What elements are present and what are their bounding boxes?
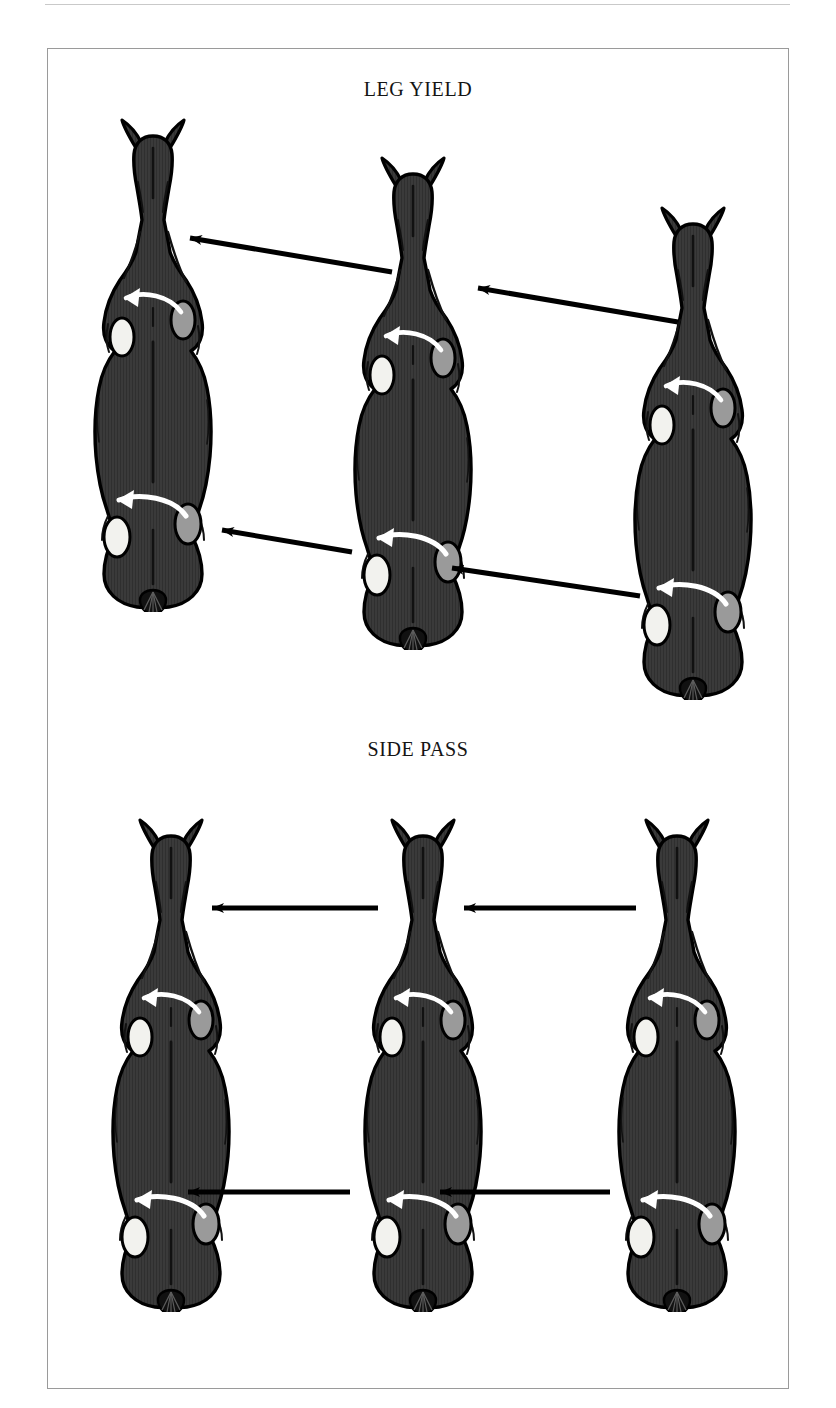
section-title-side-pass: SIDE PASS [0,738,836,761]
figure-frame [47,48,789,1389]
top-rule-divider [45,4,790,5]
section-title-leg-yield: LEG YIELD [0,78,836,101]
page-canvas: LEG YIELD SIDE PASS [0,0,836,1408]
